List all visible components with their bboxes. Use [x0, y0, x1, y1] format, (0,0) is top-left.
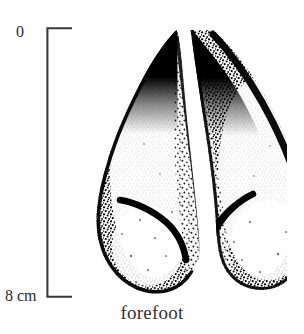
- figure-caption: forefoot: [0, 302, 304, 324]
- scale-bar-bracket: [46, 27, 72, 298]
- figure-container: 0 8 cm: [0, 0, 304, 334]
- forefoot-track-illustration: [82, 24, 287, 299]
- scale-bar-top-label: 0: [16, 24, 24, 40]
